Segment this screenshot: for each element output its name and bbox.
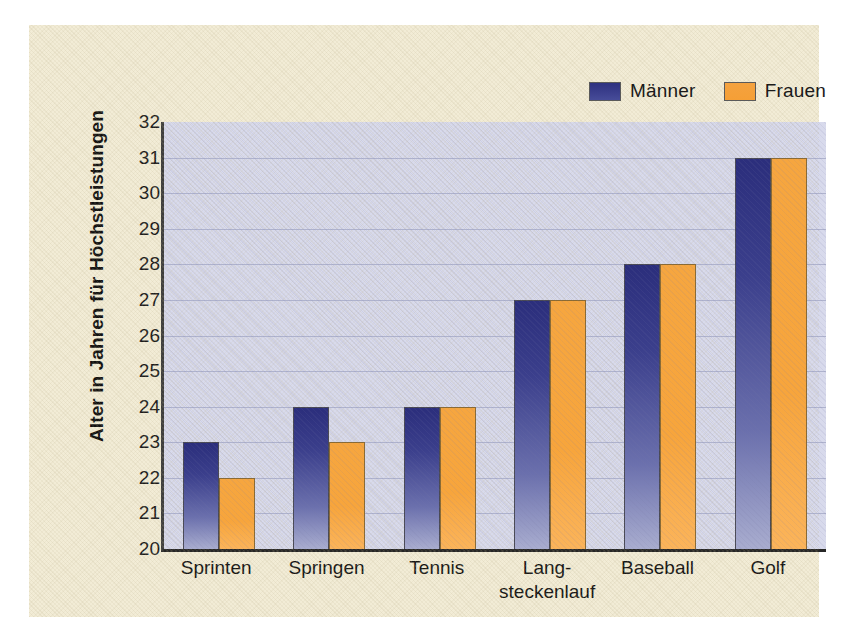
x-tick-label: Baseball	[602, 556, 712, 604]
y-tick-label: 28	[139, 253, 160, 275]
x-tick-label-line: Golf	[713, 556, 823, 580]
bar-frauen	[660, 264, 696, 549]
bar-group	[605, 122, 715, 549]
x-tick-label-line: steckenlauf	[492, 580, 602, 604]
bar-groups	[164, 122, 826, 549]
legend-swatch-icon	[589, 82, 621, 101]
x-tick-label-line: Sprinten	[161, 556, 271, 580]
bar-maenner	[514, 300, 550, 549]
bar-group	[164, 122, 274, 549]
legend-swatch-icon	[724, 82, 756, 101]
x-axis-labels: SprintenSpringenTennisLang-steckenlaufBa…	[161, 556, 823, 604]
y-axis-title: Alter in Jahren für Höchstleistungen	[86, 66, 108, 486]
y-tick-label: 23	[139, 431, 160, 453]
y-tick-label: 25	[139, 360, 160, 382]
x-tick-label: Golf	[713, 556, 823, 604]
bar-group	[385, 122, 495, 549]
plot-area	[161, 122, 826, 552]
chart-panel: Männer Frauen Alter in Jahren für Höchst…	[29, 25, 819, 617]
bar-maenner	[183, 442, 219, 549]
x-tick-label-line: Baseball	[602, 556, 712, 580]
y-tick-label: 26	[139, 325, 160, 347]
bar-maenner	[293, 407, 329, 549]
bar-frauen	[550, 300, 586, 549]
bar-maenner	[735, 158, 771, 549]
bar-frauen	[771, 158, 807, 549]
bar-group	[274, 122, 384, 549]
x-tick-label: Springen	[271, 556, 381, 604]
x-tick-label: Sprinten	[161, 556, 271, 604]
bar-frauen	[219, 478, 255, 549]
bar-maenner	[624, 264, 660, 549]
x-tick-label-line: Springen	[271, 556, 381, 580]
bar-group	[495, 122, 605, 549]
x-tick-label: Lang-steckenlauf	[492, 556, 602, 604]
y-tick-label: 32	[139, 111, 160, 133]
y-tick-label: 27	[139, 289, 160, 311]
y-tick-label: 30	[139, 182, 160, 204]
bar-frauen	[440, 407, 476, 549]
legend-item-maenner: Männer	[589, 80, 696, 102]
bar-maenner	[404, 407, 440, 549]
y-axis-ticks: 32313029282726252423222120	[132, 122, 160, 550]
x-tick-label: Tennis	[382, 556, 492, 604]
chart-legend: Männer Frauen	[589, 79, 826, 103]
y-tick-label: 20	[139, 538, 160, 560]
y-tick-label: 24	[139, 396, 160, 418]
legend-label-maenner: Männer	[630, 80, 696, 102]
legend-item-frauen: Frauen	[724, 80, 826, 102]
x-tick-label-line: Lang-	[492, 556, 602, 580]
x-tick-label-line: Tennis	[382, 556, 492, 580]
chart-screenshot: Männer Frauen Alter in Jahren für Höchst…	[0, 0, 849, 644]
y-tick-label: 29	[139, 218, 160, 240]
y-tick-label: 21	[139, 502, 160, 524]
bar-frauen	[329, 442, 365, 549]
legend-label-frauen: Frauen	[765, 80, 826, 102]
y-tick-label: 31	[139, 147, 160, 169]
bar-group	[716, 122, 826, 549]
y-tick-label: 22	[139, 467, 160, 489]
plot-area-wrapper: 32313029282726252423222120	[132, 122, 823, 550]
